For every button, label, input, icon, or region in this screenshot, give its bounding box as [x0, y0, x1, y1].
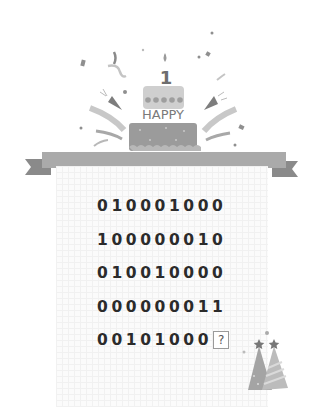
binary-row-5-text: 00101000: [97, 331, 212, 349]
binary-puzzle: 010001000 100000010 010010000 000000011 …: [97, 193, 257, 361]
missing-digit-box: ?: [213, 331, 229, 349]
binary-row-3: 010010000: [97, 260, 257, 294]
party-hats-icon: [238, 330, 292, 392]
candle-flame-icon: [164, 53, 167, 62]
binary-row-5: 00101000?: [97, 327, 257, 361]
party-popper-right-icon: [204, 96, 218, 110]
party-popper-left-icon: [108, 96, 122, 110]
candle-number: 1: [160, 67, 173, 88]
binary-row-2: 100000010: [97, 227, 257, 261]
binary-row-1: 010001000: [97, 193, 257, 227]
binary-row-4: 000000011: [97, 294, 257, 328]
cake-happy-text: HAPPY: [142, 107, 184, 122]
